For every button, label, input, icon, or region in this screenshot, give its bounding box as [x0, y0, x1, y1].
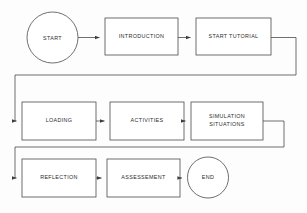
node-shape-start-tutorial[interactable]	[196, 18, 271, 55]
node-shape-activities[interactable]	[110, 102, 184, 140]
node-shape-simulation-situations[interactable]	[191, 102, 263, 140]
node-shape-start[interactable]	[27, 12, 78, 63]
node-shape-end[interactable]	[188, 157, 229, 198]
node-shape-reflection[interactable]	[22, 159, 96, 197]
node-shapes-layer	[22, 12, 271, 198]
node-shape-introduction[interactable]	[105, 18, 178, 55]
node-shape-assessement[interactable]	[107, 159, 180, 197]
flowchart-svg	[0, 0, 307, 213]
node-shape-loading[interactable]	[22, 102, 96, 140]
flowchart-canvas: START INTRODUCTION START TUTORIAL LOADIN…	[0, 0, 307, 213]
